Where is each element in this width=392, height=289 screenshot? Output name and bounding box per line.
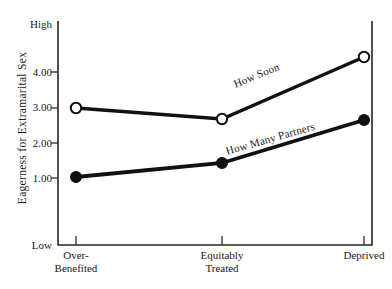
x-tick-label-equitably-treated-line1: Equitably — [162, 249, 282, 262]
series-how-soon-line — [76, 57, 364, 119]
x-tick-label-equitably-treated: Equitably Treated — [162, 249, 282, 274]
data-point-how-many-partners-1 — [217, 158, 228, 169]
x-tick-label-over-benefited-line2: Benefited — [16, 262, 136, 275]
x-tick-marks — [76, 236, 364, 245]
data-point-how-soon-2 — [359, 52, 369, 62]
data-point-how-soon-1 — [217, 114, 227, 124]
x-tick-label-over-benefited: Over- Benefited — [16, 249, 136, 274]
chart-figure: Eagerness for Extramarital Sex High 4.00… — [0, 0, 392, 289]
x-tick-label-over-benefited-line1: Over- — [16, 249, 136, 262]
x-tick-label-equitably-treated-line2: Treated — [162, 262, 282, 275]
data-point-how-many-partners-0 — [71, 172, 82, 183]
x-tick-label-deprived-line1: Deprived — [304, 249, 392, 262]
x-tick-label-deprived: Deprived — [304, 249, 392, 262]
y-tick-marks — [51, 72, 58, 178]
data-point-how-soon-0 — [71, 103, 81, 113]
series-how-soon — [71, 52, 369, 124]
plot-canvas — [0, 0, 392, 289]
data-point-how-many-partners-2 — [359, 115, 370, 126]
